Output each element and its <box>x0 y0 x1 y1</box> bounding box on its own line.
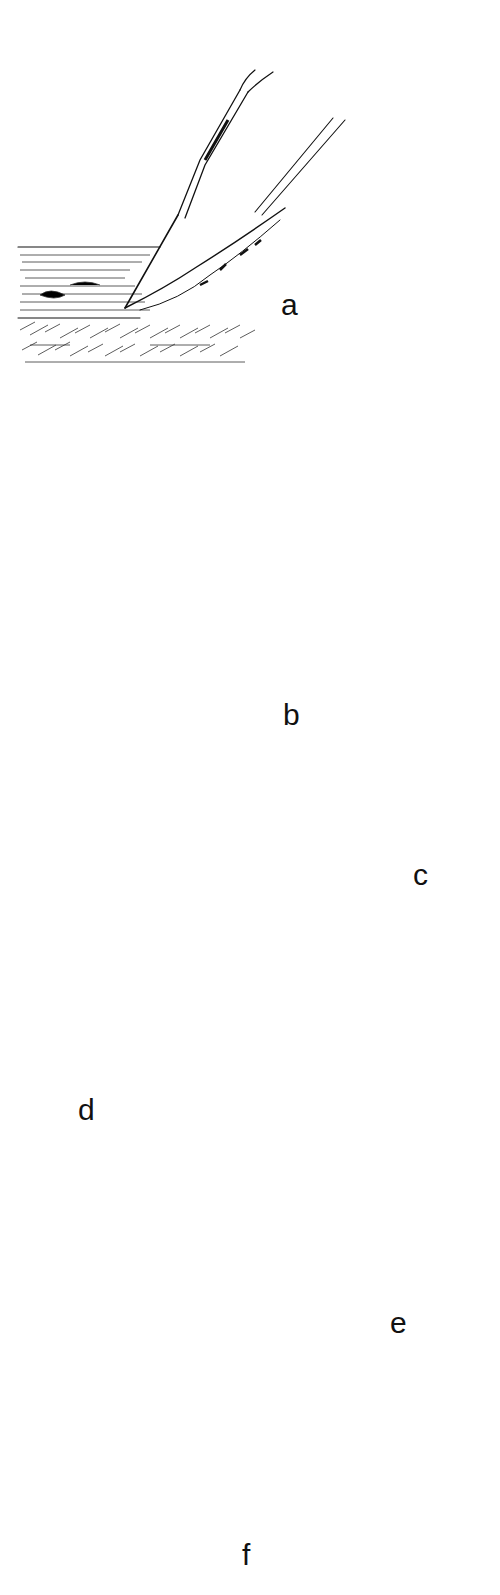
panel-label-f: f <box>242 1540 250 1570</box>
illustration-canvas <box>0 0 500 1595</box>
panel-label-b: b <box>283 700 300 730</box>
panel-label-d: d <box>78 1095 95 1125</box>
panel-label-c: c <box>413 860 428 890</box>
panel-label-a: a <box>281 290 298 320</box>
panel-label-e: e <box>390 1308 407 1338</box>
